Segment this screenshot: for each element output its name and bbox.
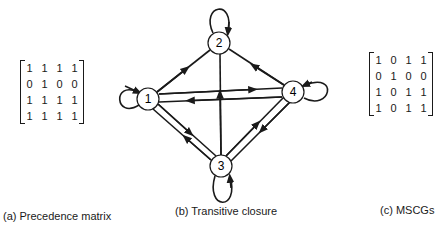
node-4: 4	[282, 81, 304, 103]
caption-mscgs: (c) MSCGs	[380, 204, 434, 216]
node-label: 1	[145, 92, 152, 106]
node-3: 3	[210, 155, 232, 177]
node-label: 4	[290, 85, 297, 99]
node-label: 2	[216, 36, 223, 50]
node-label: 3	[218, 159, 225, 173]
node-2: 2	[208, 32, 230, 54]
self-loop-1	[120, 90, 139, 109]
caption-transitive-closure: (b) Transitive closure	[175, 205, 277, 217]
self-loop-3	[213, 176, 232, 202]
caption-precedence-matrix: (a) Precedence matrix	[3, 210, 111, 222]
transitive-closure-graph: 1 2 3 4	[0, 0, 436, 232]
node-1: 1	[137, 88, 159, 110]
self-loop-2	[210, 9, 229, 33]
self-loop-4	[304, 82, 328, 101]
